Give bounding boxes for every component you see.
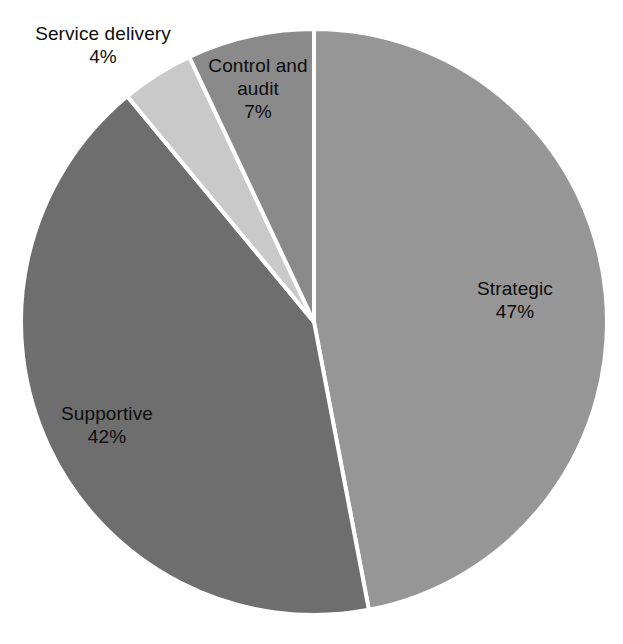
pie-label-control-and-audit-name: Control and audit	[200, 54, 316, 100]
pie-label-supportive-value: 42%	[32, 425, 182, 448]
pie-label-strategic: Strategic 47%	[440, 277, 590, 323]
pie-label-strategic-value: 47%	[440, 300, 590, 323]
pie-label-control-and-audit: Control and audit 7%	[200, 54, 316, 124]
pie-label-service-delivery: Service delivery 4%	[10, 22, 196, 68]
pie-label-control-and-audit-value: 7%	[200, 100, 316, 123]
pie-label-supportive-name: Supportive	[32, 402, 182, 425]
pie-label-service-delivery-value: 4%	[10, 45, 196, 68]
pie-label-service-delivery-name: Service delivery	[10, 22, 196, 45]
pie-label-supportive: Supportive 42%	[32, 402, 182, 448]
pie-label-strategic-name: Strategic	[440, 277, 590, 300]
pie-chart-figure: Service delivery 4% Control and audit 7%…	[0, 0, 623, 644]
